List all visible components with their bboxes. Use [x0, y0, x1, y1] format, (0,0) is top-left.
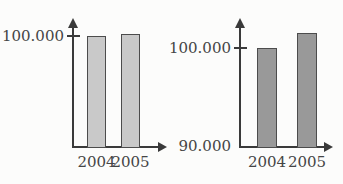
bar-2005	[297, 33, 317, 148]
right-chart: 100.00090.00020042005	[0, 0, 343, 184]
x-axis-arrow-icon	[324, 142, 333, 152]
category-label-2005: 2005	[282, 153, 332, 171]
misleading-axis-figure: 100.00020042005 100.00090.00020042005	[0, 0, 343, 184]
y-tick-label: 100.000	[161, 39, 231, 57]
y-tick-label: 90.000	[161, 137, 231, 155]
bar-2004	[257, 48, 277, 148]
y-axis	[239, 23, 241, 148]
y-tick-mark	[234, 47, 247, 49]
y-axis-arrow-icon	[235, 18, 245, 28]
